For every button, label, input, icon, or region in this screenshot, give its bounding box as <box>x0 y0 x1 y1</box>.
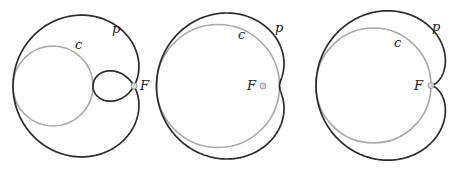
focus-point-icon <box>131 83 137 89</box>
label-c: c <box>238 27 246 42</box>
focus-point-icon <box>260 83 266 89</box>
panel-cardioid: c p F <box>316 11 445 160</box>
label-c: c <box>75 37 83 52</box>
label-c: c <box>394 35 402 50</box>
label-f: F <box>139 78 150 93</box>
label-p: p <box>112 21 121 36</box>
panel-inner-loop: c p F <box>13 15 150 157</box>
pedal-curve-p <box>316 11 445 160</box>
panel-dimpled: c p F <box>157 13 285 159</box>
label-p: p <box>432 19 441 34</box>
diagram-canvas: c p F c p F c p F <box>0 0 452 170</box>
label-p: p <box>275 20 284 35</box>
label-f: F <box>413 78 424 93</box>
focus-point-icon <box>428 83 434 89</box>
circle-c <box>13 46 93 126</box>
pedal-curves-figure: c p F c p F c p F <box>0 0 452 170</box>
label-f: F <box>246 78 257 93</box>
